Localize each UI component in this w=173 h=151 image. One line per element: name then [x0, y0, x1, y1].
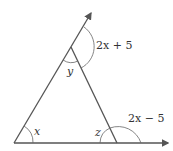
angle-x-arc [24, 126, 33, 143]
label-exterior-top: 2x + 5 [96, 39, 132, 52]
exterior-top-arc [81, 27, 94, 68]
label-z: z [94, 126, 101, 139]
exterior-right-arc [110, 127, 141, 143]
angle-y-arc [63, 60, 78, 63]
label-x: x [34, 125, 41, 138]
label-y: y [66, 65, 74, 78]
left-side-ray [14, 13, 91, 143]
label-exterior-right: 2x − 5 [128, 112, 164, 125]
angle-z-arc [100, 128, 110, 143]
triangle-diagram: x y z 2x + 5 2x − 5 [0, 0, 173, 151]
